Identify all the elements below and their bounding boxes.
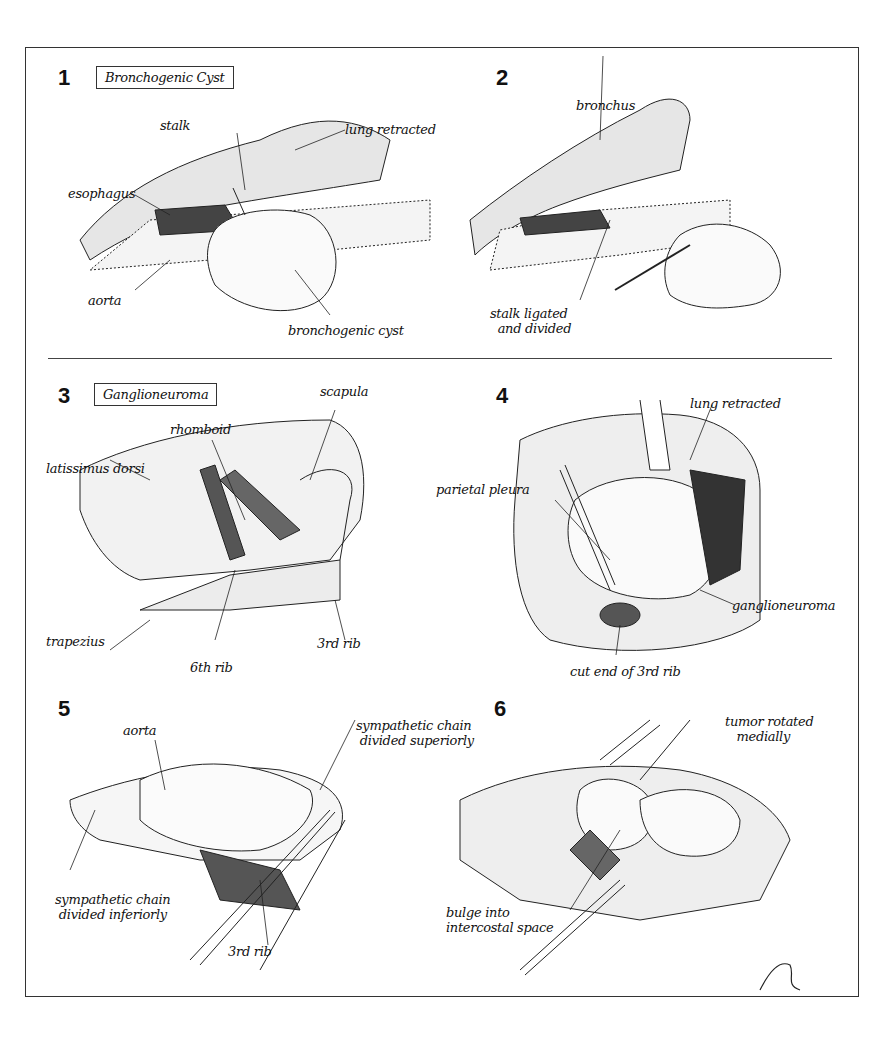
- panel-3-title: Ganglioneuroma: [94, 383, 217, 406]
- illustration-artwork: [0, 0, 891, 1040]
- label-ganglioneuroma: ganglioneuroma: [732, 598, 835, 613]
- panel-6-drawing: [460, 720, 790, 975]
- label-sympathetic-chain-inferiorly: sympathetic chain divided inferiorly: [55, 892, 170, 922]
- label-lung-retracted-4: lung retracted: [690, 396, 781, 411]
- panel-5-drawing: [70, 764, 345, 970]
- panel-4-drawing: [514, 400, 760, 650]
- label-stalk: stalk: [160, 118, 190, 133]
- label-bronchogenic-cyst: bronchogenic cyst: [288, 323, 404, 338]
- label-bronchus: bronchus: [576, 98, 635, 113]
- label-6th-rib: 6th rib: [190, 660, 233, 675]
- label-cut-end-3rd-rib: cut end of 3rd rib: [570, 664, 681, 679]
- label-stalk-ligated: stalk ligated and divided: [490, 306, 571, 336]
- label-aorta-1: aorta: [88, 293, 121, 308]
- label-esophagus: esophagus: [68, 186, 135, 201]
- panel-1-number: 1: [58, 65, 70, 91]
- label-rhomboid: rhomboid: [170, 422, 231, 437]
- panel-2-number: 2: [496, 65, 508, 91]
- artist-signature-mark: [760, 964, 800, 990]
- label-scapula: scapula: [320, 384, 368, 399]
- label-3rd-rib-3: 3rd rib: [317, 636, 361, 651]
- label-latissimus-dorsi: latissimus dorsi: [46, 461, 145, 476]
- label-3rd-rib-5: 3rd rib: [228, 944, 272, 959]
- label-lung-retracted-1: lung retracted: [345, 122, 436, 137]
- panel-2-drawing: [470, 99, 780, 308]
- label-sympathetic-chain-superiorly: sympathetic chain divided superiorly: [356, 718, 474, 748]
- panel-6-number: 6: [494, 696, 506, 722]
- panel-1-drawing: [80, 121, 430, 311]
- panel-5-number: 5: [58, 696, 70, 722]
- label-trapezius: trapezius: [46, 634, 105, 649]
- panel-3-number: 3: [58, 383, 70, 409]
- label-aorta-5: aorta: [123, 723, 156, 738]
- label-parietal-pleura: parietal pleura: [436, 482, 529, 497]
- label-bulge-intercostal-space: bulge into intercostal space: [446, 905, 553, 935]
- label-tumor-rotated-medially: tumor rotated medially: [725, 714, 813, 744]
- panel-1-title: Bronchogenic Cyst: [96, 66, 234, 89]
- panel-4-number: 4: [496, 383, 508, 409]
